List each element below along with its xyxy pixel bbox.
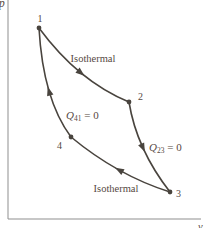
q41-zero-label: Q41 = 0 [66,109,99,123]
state-point-3-label: 3 [176,188,181,199]
state-point-1-dot [37,26,42,31]
pv-diagram: pv1234IsothermalQ41 = 0Q23 = 0Isothermal [0,0,213,228]
state-point-4-label: 4 [57,140,62,151]
process-2-3-adiabatic-arrowhead [138,143,148,154]
pv-cycle-figure: pv1234IsothermalQ41 = 0Q23 = 0Isothermal [0,0,213,228]
state-point-3-dot [168,190,173,195]
process-4-1-adiabatic-arrowhead [45,86,54,96]
state-point-1-label: 1 [38,13,43,24]
process-3-4-isothermal-arrowhead [113,165,124,175]
y-axis-label: p [0,0,5,10]
x-axis-label: v [198,221,203,228]
state-point-4-dot [69,135,74,140]
process-1-2-isothermal [39,28,129,102]
state-point-2-label: 2 [138,91,143,102]
state-point-2-dot [127,100,132,105]
isothermal-top-label: Isothermal [71,53,116,64]
isothermal-bottom-label: Isothermal [94,183,139,194]
q23-zero-label: Q23 = 0 [149,141,182,155]
